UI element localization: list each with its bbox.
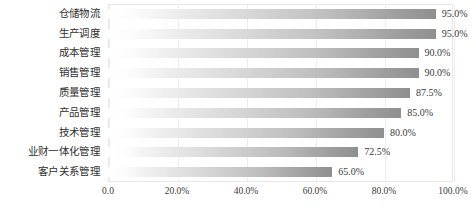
bar-track bbox=[108, 48, 453, 58]
bar-fill[interactable] bbox=[108, 147, 358, 157]
category-label: 成本管理 bbox=[0, 47, 100, 59]
bar-chart: 仓储物流95.0%生产调度95.0%成本管理90.0%销售管理90.0%质量管理… bbox=[0, 0, 476, 213]
bar-track bbox=[108, 108, 453, 118]
bar-value-label: 85.0% bbox=[407, 107, 433, 119]
bar-value-label: 72.5% bbox=[364, 146, 390, 158]
x-tick-label: 60.0% bbox=[303, 184, 328, 198]
bar-track bbox=[108, 29, 453, 39]
bar-value-label: 80.0% bbox=[390, 127, 416, 139]
bar-value-label: 87.5% bbox=[416, 87, 442, 99]
bar-value-label: 90.0% bbox=[425, 47, 451, 59]
category-label: 销售管理 bbox=[0, 67, 100, 79]
x-tick-label: 20.0% bbox=[165, 184, 190, 198]
bar-fill[interactable] bbox=[108, 9, 436, 19]
category-label: 生产调度 bbox=[0, 28, 100, 40]
category-label: 产品管理 bbox=[0, 107, 100, 119]
bar-fill[interactable] bbox=[108, 48, 419, 58]
bar-track bbox=[108, 68, 453, 78]
bar-fill[interactable] bbox=[108, 68, 419, 78]
category-label: 业财一体化管理 bbox=[0, 146, 100, 158]
x-tick-label: 100.0% bbox=[438, 184, 467, 198]
bar-row: 成本管理90.0% bbox=[0, 44, 476, 64]
bar-fill[interactable] bbox=[108, 88, 410, 98]
bar-row: 技术管理80.0% bbox=[0, 123, 476, 143]
bar-row: 仓储物流95.0% bbox=[0, 4, 476, 24]
bar-row: 生产调度95.0% bbox=[0, 24, 476, 44]
bar-fill[interactable] bbox=[108, 128, 384, 138]
bar-rows: 仓储物流95.0%生产调度95.0%成本管理90.0%销售管理90.0%质量管理… bbox=[0, 4, 476, 182]
bar-fill[interactable] bbox=[108, 167, 332, 177]
bar-fill[interactable] bbox=[108, 29, 436, 39]
x-tick-label: 0.0 bbox=[102, 184, 114, 198]
bar-value-label: 65.0% bbox=[338, 166, 364, 178]
category-label: 质量管理 bbox=[0, 87, 100, 99]
category-label: 客户关系管理 bbox=[0, 166, 100, 178]
bar-track bbox=[108, 88, 453, 98]
bar-row: 产品管理85.0% bbox=[0, 103, 476, 123]
bar-fill[interactable] bbox=[108, 108, 401, 118]
x-axis: 0.020.0%40.0%60.0%80.0%100.0% bbox=[108, 184, 453, 204]
bar-value-label: 90.0% bbox=[425, 67, 451, 79]
bar-value-label: 95.0% bbox=[442, 28, 468, 40]
bar-row: 销售管理90.0% bbox=[0, 63, 476, 83]
bar-row: 质量管理87.5% bbox=[0, 83, 476, 103]
bar-row: 业财一体化管理72.5% bbox=[0, 142, 476, 162]
category-label: 仓储物流 bbox=[0, 8, 100, 20]
x-tick-label: 40.0% bbox=[234, 184, 259, 198]
bar-row: 客户关系管理65.0% bbox=[0, 162, 476, 182]
bar-track bbox=[108, 147, 453, 157]
bar-track bbox=[108, 167, 453, 177]
bar-track bbox=[108, 9, 453, 19]
category-label: 技术管理 bbox=[0, 127, 100, 139]
bar-value-label: 95.0% bbox=[442, 8, 468, 20]
x-tick-label: 80.0% bbox=[372, 184, 397, 198]
